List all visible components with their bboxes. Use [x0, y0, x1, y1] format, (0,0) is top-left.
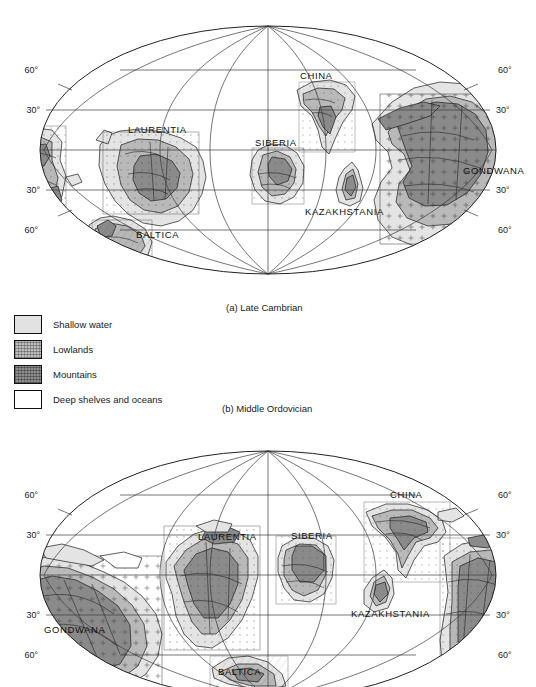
lat-label-60n-left-b: 60° — [24, 490, 38, 500]
landmass-laurentia — [96, 129, 206, 226]
legend-item-mountains: Mountains — [14, 362, 264, 387]
lat-label-30n-left-a: 30° — [26, 105, 40, 115]
lat-label-60s-right-a: 60° — [498, 225, 512, 235]
legend-item-lowlands: Lowlands — [14, 337, 264, 362]
landmass-gondwana-east-edge-b — [440, 534, 528, 676]
legend-item-shallow-water: Shallow water — [14, 312, 264, 337]
lowlands-swatch — [14, 340, 42, 359]
lat-label-60s-left-b: 60° — [24, 650, 38, 660]
lat-label-30s-right-a: 30° — [496, 185, 510, 195]
continent-label-kazakhstania-b: KAZAKHSTANIA — [351, 608, 430, 619]
lat-label-30n-left-b: 30° — [26, 530, 40, 540]
landmass-siberia-b — [276, 536, 336, 604]
lat-label-60n-left-a: 60° — [24, 65, 38, 75]
lat-label-60n-right-b: 60° — [498, 490, 512, 500]
landmass-baltica — [88, 216, 152, 264]
figure-root: 60° 30° 30° 60° 60° 30° 30° 60° LAURENTI… — [0, 0, 536, 687]
continent-label-laurentia-b: LAURENTIA — [198, 531, 257, 542]
lat-label-30s-right-b: 30° — [496, 610, 510, 620]
lat-label-30s-left-a: 30° — [26, 185, 40, 195]
legend-label-deep-shelves-and-oceans: Deep shelves and oceans — [53, 395, 162, 405]
mountains-swatch — [14, 365, 42, 384]
continent-label-siberia-a: SIBERIA — [255, 137, 297, 148]
continent-label-laurentia-a: LAURENTIA — [128, 124, 187, 135]
lat-label-30n-right-b: 30° — [496, 530, 510, 540]
continent-label-china-a: CHINA — [300, 70, 333, 81]
continent-label-siberia-b: SIBERIA — [291, 530, 333, 541]
legend-label-shallow-water: Shallow water — [53, 320, 112, 330]
map-late-cambrian: 60° 30° 30° 60° 60° 30° 30° 60° LAURENTI… — [0, 14, 536, 286]
map-middle-ordovician: 60° 30° 30° 60° 60° 30° 30° 60° LAURENTI… — [0, 430, 536, 687]
continent-label-china-b: CHINA — [390, 489, 423, 500]
landmass-siberia — [250, 144, 304, 204]
continent-label-baltica-b: BALTICA — [218, 666, 261, 677]
lat-label-60s-right-b: 60° — [498, 650, 512, 660]
caption-middle-ordovician: (b) Middle Ordovician — [222, 404, 312, 414]
deep-ocean-swatch — [14, 390, 42, 409]
continent-label-kazakhstania-a: KAZAKHSTANIA — [305, 206, 384, 217]
lat-label-60n-right-a: 60° — [498, 65, 512, 75]
map-legend: Shallow water Lowlands Mountains Deep sh… — [14, 312, 264, 412]
lat-label-60s-left-a: 60° — [24, 225, 38, 235]
lat-label-30s-left-b: 30° — [26, 610, 40, 620]
continent-label-gondwana-b: GONDWANA — [44, 624, 106, 635]
continent-label-baltica-a: BALTICA — [136, 229, 179, 240]
caption-late-cambrian: (a) Late Cambrian — [226, 303, 303, 313]
continent-label-gondwana-a: GONDWANA — [463, 165, 525, 176]
shallow-water-swatch — [14, 315, 42, 334]
legend-label-mountains: Mountains — [53, 370, 97, 380]
legend-label-lowlands: Lowlands — [53, 345, 93, 355]
lat-label-30n-right-a: 30° — [496, 105, 510, 115]
map-late-cambrian-svg: 60° 30° 30° 60° 60° 30° 30° 60° LAURENTI… — [0, 14, 536, 286]
map-middle-ordovician-svg: 60° 30° 30° 60° 60° 30° 30° 60° LAURENTI… — [0, 430, 536, 687]
